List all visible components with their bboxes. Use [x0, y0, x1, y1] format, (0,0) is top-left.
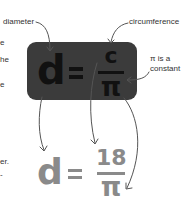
annotation-arrows	[0, 0, 192, 205]
arrow-pi-note-icon	[128, 72, 149, 80]
arrow-d-to-result-icon	[39, 97, 44, 150]
arrow-pi-to-result-icon	[124, 98, 138, 188]
arrow-c-to-18-icon	[91, 63, 97, 143]
arrow-diameter-icon	[36, 22, 50, 50]
arrow-circumference-icon	[111, 23, 128, 42]
